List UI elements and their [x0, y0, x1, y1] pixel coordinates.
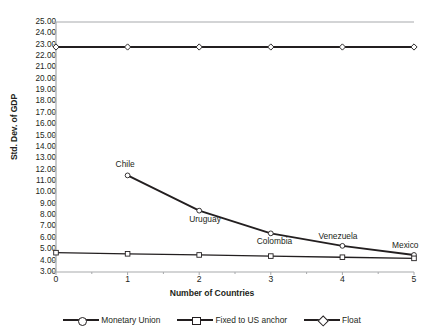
- data-point-marker: [340, 243, 345, 248]
- x-tick-label: 5: [402, 274, 424, 284]
- series-line: [56, 253, 414, 259]
- data-point-marker: [411, 44, 417, 50]
- x-tick-label: 1: [116, 274, 140, 284]
- legend-item-circle[interactable]: Monetary Union: [63, 314, 160, 326]
- data-point-marker: [125, 252, 130, 257]
- data-point-marker: [268, 44, 274, 50]
- data-point-marker: [197, 208, 202, 213]
- legend-item-label: Fixed to US anchor: [215, 315, 287, 325]
- point-annotation: Venezuela: [318, 232, 357, 241]
- data-point-marker: [340, 255, 345, 260]
- data-point-marker: [197, 253, 202, 258]
- x-axis-title: Number of Countries: [0, 288, 424, 298]
- x-tick-label: 4: [330, 274, 354, 284]
- data-point-marker: [124, 44, 130, 50]
- circle-marker-icon: [63, 314, 99, 326]
- square-marker-icon: [177, 314, 213, 326]
- series-markers: [53, 44, 417, 261]
- diamond-marker-icon: [304, 314, 340, 326]
- x-tick-label: 3: [259, 274, 283, 284]
- x-tick-label: 0: [44, 274, 68, 284]
- point-annotation: Colombia: [257, 237, 292, 246]
- data-point-marker: [269, 254, 274, 259]
- point-annotation: Mexico: [392, 241, 419, 250]
- legend-item-square[interactable]: Fixed to US anchor: [177, 314, 287, 326]
- data-point-marker: [196, 44, 202, 50]
- data-point-marker: [54, 250, 59, 255]
- legend-item-label: Monetary Union: [101, 315, 160, 325]
- axis-tick-marks: [53, 22, 414, 275]
- series-lines: [56, 47, 414, 258]
- data-point-marker: [125, 173, 130, 178]
- chart-legend: Monetary UnionFixed to US anchorFloat: [0, 310, 424, 330]
- point-annotation: Uruguay: [189, 215, 221, 224]
- chart-figure: Std. Dev. of GDP 25.0024.0023.0022.0021.…: [0, 0, 424, 335]
- data-point-marker: [339, 44, 345, 50]
- legend-item-label: Float: [342, 315, 361, 325]
- axis-lines: [56, 22, 414, 272]
- data-point-marker: [268, 231, 273, 236]
- point-annotation: Chile: [116, 160, 135, 169]
- data-point-marker: [412, 256, 417, 261]
- legend-item-diamond[interactable]: Float: [304, 314, 361, 326]
- x-tick-label: 2: [187, 274, 211, 284]
